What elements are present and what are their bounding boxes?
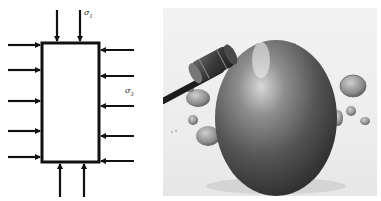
bottom-arrows	[60, 164, 84, 197]
photo-illustration	[163, 8, 377, 196]
sigma1-label: σ1	[84, 8, 93, 19]
coin	[346, 106, 356, 116]
speck	[171, 131, 173, 133]
top-arrows	[57, 10, 80, 41]
right-arrows	[101, 50, 134, 161]
coin	[360, 117, 370, 125]
coin	[188, 115, 198, 125]
egg-highlight	[252, 42, 270, 78]
stress-element-svg	[0, 0, 160, 201]
speck	[175, 130, 177, 132]
sigma3-label: σ3	[125, 86, 134, 97]
gavel-egg-photo	[163, 8, 377, 196]
element-box	[42, 43, 99, 162]
coin	[340, 75, 366, 97]
left-arrows	[8, 45, 40, 157]
stress-diagram: σ1 σ3	[0, 0, 160, 201]
